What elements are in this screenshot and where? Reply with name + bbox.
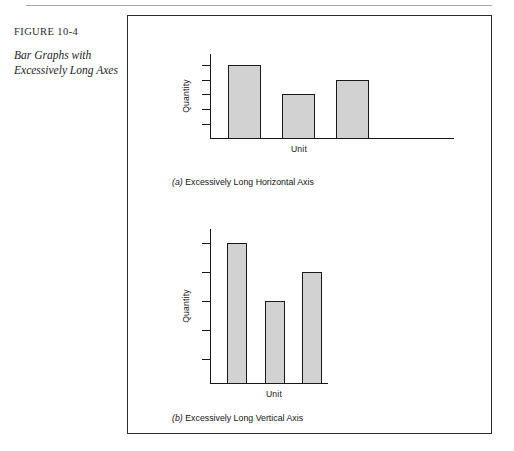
chart-b-y-tick-5 xyxy=(202,243,211,244)
chart-b-y-tick-1 xyxy=(202,359,211,360)
figure-title: Bar Graphs with Excessively Long Axes xyxy=(14,48,118,77)
figure-number: FIGURE 10-4 xyxy=(14,26,118,37)
chart-a-bar-3 xyxy=(336,80,369,139)
top-rule xyxy=(26,5,492,6)
chart-b-x-axis-label: Unit xyxy=(244,389,304,399)
figure-caption-block: FIGURE 10-4 Bar Graphs with Excessively … xyxy=(14,26,118,77)
chart-a-y-axis-label: Quantity xyxy=(181,66,191,126)
chart-b-y-tick-3 xyxy=(202,301,211,302)
chart-a-y-tick-3 xyxy=(202,94,211,95)
chart-a-marker: (a) xyxy=(172,177,183,187)
chart-b-y-tick-2 xyxy=(202,330,211,331)
chart-a-y-axis xyxy=(210,54,211,139)
chart-a-excessively-long-horizontal-axis: Quantity Unit (a) Excessively Long Horiz… xyxy=(128,16,493,201)
chart-a-y-tick-5 xyxy=(202,65,211,66)
chart-a-x-axis-label: Unit xyxy=(269,144,329,154)
chart-b-bar-2 xyxy=(265,301,285,384)
chart-b-marker: (b) xyxy=(172,413,183,423)
figure-frame: Quantity Unit (a) Excessively Long Horiz… xyxy=(127,15,492,434)
chart-b-excessively-long-vertical-axis: Quantity Unit (b) Excessively Long Verti… xyxy=(128,201,493,435)
chart-b-subcaption: (b) Excessively Long Vertical Axis xyxy=(172,413,303,423)
chart-b-bar-3 xyxy=(302,272,322,384)
chart-a-caption-text: Excessively Long Horizontal Axis xyxy=(185,177,314,187)
chart-b-y-axis-label: Quantity xyxy=(181,276,191,336)
chart-b-bar-1 xyxy=(227,243,247,384)
chart-a-subcaption: (a) Excessively Long Horizontal Axis xyxy=(172,177,314,187)
chart-a-bar-2 xyxy=(282,94,315,139)
chart-b-caption-text: Excessively Long Vertical Axis xyxy=(185,413,303,423)
chart-a-y-tick-4 xyxy=(202,80,211,81)
chart-a-bar-1 xyxy=(228,65,261,139)
chart-a-y-tick-1 xyxy=(202,124,211,125)
chart-a-y-tick-2 xyxy=(202,109,211,110)
chart-b-y-tick-4 xyxy=(202,272,211,273)
chart-b-y-axis xyxy=(210,229,211,384)
